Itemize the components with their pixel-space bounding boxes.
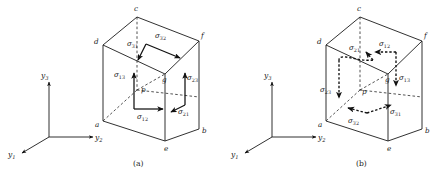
sigma-31-arrow-a <box>138 44 146 60</box>
panel-b-axes: y3 y2 y1 <box>230 71 326 160</box>
sigma-32-arrow-a <box>146 44 180 58</box>
cube-edge-a-dg <box>103 45 165 74</box>
cube-edge-b-gf <box>388 41 422 74</box>
cube-edge-a-eb <box>165 129 199 141</box>
vertex-label-b-f: f <box>423 31 428 40</box>
panel-a-axes: y3 y2 y1 <box>7 71 103 160</box>
sigma-32-label-b: σ32 <box>348 117 359 126</box>
sigma-23-label-b: σ23 <box>320 86 331 95</box>
axis-y2-label-b: y2 <box>317 133 326 143</box>
vertex-label-a-e: e <box>164 144 168 153</box>
sigma-12-label-a: σ12 <box>137 113 148 122</box>
panel-b-stresses: σ21 σ12 σ13 σ23 σ32 <box>320 40 410 126</box>
point-label-b-p: p <box>362 87 367 96</box>
sigma-21-arrow-b <box>366 52 373 60</box>
sigma-23-label-a: σ23 <box>187 74 198 83</box>
sigma-21-label-a: σ21 <box>178 108 189 117</box>
vertex-label-b-c: c <box>357 4 361 13</box>
sigma-21-label-b: σ21 <box>349 44 360 53</box>
vertex-label-b-d: d <box>317 37 322 46</box>
cube-edge-b-cf <box>360 17 422 41</box>
sigma-13-label-a: σ13 <box>114 71 125 80</box>
vertex-label-a-b: b <box>202 126 207 135</box>
figure-root: y3 y2 y1 <box>0 0 446 181</box>
cube-edge-a-gf <box>165 41 199 74</box>
sigma-31-label-a: σ31 <box>127 40 138 49</box>
sigma-32-arrow-b <box>348 108 367 113</box>
vertex-label-b-b: b <box>425 126 430 135</box>
cube-edge-a-ga <box>103 90 137 121</box>
panel-a-caption: (a) <box>133 159 143 168</box>
cube-edge-b-dc <box>326 17 360 45</box>
axis-y1-label-b: y1 <box>230 150 239 160</box>
vertex-label-b-a: a <box>318 120 322 129</box>
cube-edge-a-cf <box>137 17 199 41</box>
sigma-13-label-b: σ13 <box>399 74 410 83</box>
panel-a-stresses: σ31 σ32 σ13 σ23 σ12 <box>114 32 198 122</box>
vertex-label-a-f: f <box>200 31 205 40</box>
cube-edge-b-ga <box>326 90 360 121</box>
axis-y2-label-a: y2 <box>94 133 103 143</box>
vertex-label-b-e: e <box>387 144 391 153</box>
cube-edge-b-eb <box>388 129 422 141</box>
axis-y3-label-a: y3 <box>40 71 49 81</box>
axis-y1-label-a: y1 <box>7 150 16 160</box>
panel-b-cube: c d f g a b e p <box>317 4 430 153</box>
cube-edge-a-ae <box>103 121 165 141</box>
panel-a: y3 y2 y1 <box>7 4 207 168</box>
cube-edge-a-gh1 <box>137 90 199 97</box>
panel-b: y3 y2 y1 c d f <box>230 4 430 168</box>
cube-edge-b-gh1 <box>360 90 422 97</box>
stress-cube-figure: y3 y2 y1 <box>0 0 446 181</box>
axis-y1-line-a <box>22 137 49 153</box>
point-label-a-p: p <box>141 85 146 94</box>
vertex-label-a-d: d <box>94 37 99 46</box>
sigma-32-label-a: σ32 <box>155 32 166 41</box>
axis-y1-line-b <box>245 137 272 153</box>
cube-edge-a-dc <box>103 17 137 45</box>
axis-y3-label-b: y3 <box>263 71 272 81</box>
panel-b-caption: (b) <box>356 159 367 168</box>
vertex-label-a-c: c <box>134 4 138 13</box>
vertex-label-b-g: g <box>385 75 390 84</box>
vertex-label-a-g: g <box>162 75 167 84</box>
sigma-12-label-b: σ12 <box>379 40 390 49</box>
sigma-31-arrow-b <box>367 105 391 113</box>
sigma-31-label-b: σ31 <box>390 108 401 117</box>
vertex-label-a-a: a <box>95 120 99 129</box>
